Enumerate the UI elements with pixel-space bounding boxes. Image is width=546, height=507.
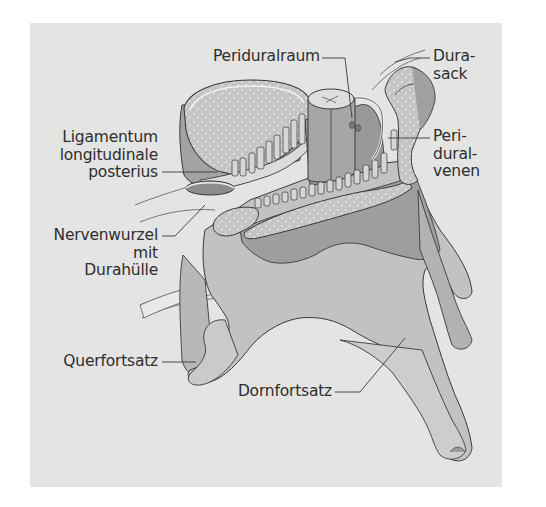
- label-periduralvenen: Peri- dural- venen: [433, 128, 480, 181]
- label-nervenwurzel-mit-durahuelle: Nervenwurzel mit Durahülle: [30, 227, 158, 280]
- label-durasack: Dura- sack: [433, 48, 475, 83]
- label-ligamentum-longitudinale-posterius: Ligamentum longitudinale posterius: [40, 129, 158, 182]
- label-dornfortsatz: Dornfortsatz: [215, 383, 332, 401]
- label-periduralraum: Periduralraum: [200, 48, 320, 66]
- spinal-cord-column: [308, 98, 355, 182]
- label-querfortsatz: Querfortsatz: [40, 353, 158, 371]
